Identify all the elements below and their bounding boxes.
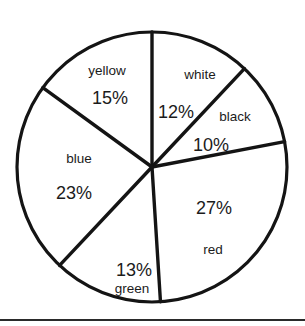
slice-name-label-blue: blue: [66, 152, 92, 166]
slice-name-label-red: red: [203, 243, 223, 257]
slice-value-label-red: 27%: [196, 199, 232, 217]
slice-value-label-black: 10%: [193, 136, 229, 154]
pie-slice-labels: white12%black10%red27%green13%blue23%yel…: [0, 0, 305, 326]
slice-name-label-green: green: [115, 282, 150, 296]
pie-chart-figure: white12%black10%red27%green13%blue23%yel…: [0, 0, 305, 326]
slice-value-label-yellow: 15%: [92, 89, 128, 107]
bottom-divider-rule: [0, 319, 305, 321]
slice-name-label-white: white: [184, 68, 216, 82]
slice-value-label-green: 13%: [116, 261, 152, 279]
slice-name-label-black: black: [219, 110, 251, 124]
slice-value-label-blue: 23%: [56, 184, 92, 202]
slice-name-label-yellow: yellow: [88, 64, 126, 78]
slice-value-label-white: 12%: [158, 103, 194, 121]
